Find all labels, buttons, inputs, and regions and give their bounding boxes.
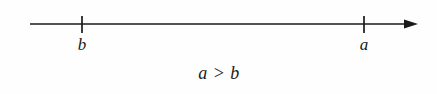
number-line-figure: b a a > b [0, 0, 437, 94]
tick-label-a: a [360, 36, 369, 53]
tick-label-b: b [78, 36, 87, 53]
inequality-caption: a > b [198, 64, 240, 82]
arrowhead-right-icon [404, 20, 418, 29]
